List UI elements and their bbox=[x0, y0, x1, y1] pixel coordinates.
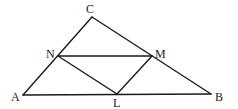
label-n: N bbox=[46, 47, 55, 61]
segment-ml bbox=[117, 56, 152, 94]
label-c: C bbox=[86, 2, 94, 16]
segment-ln bbox=[58, 56, 117, 94]
label-b: B bbox=[215, 90, 223, 104]
label-m: M bbox=[155, 47, 166, 61]
label-a: A bbox=[11, 90, 20, 104]
label-l: L bbox=[113, 96, 120, 109]
triangle-diagram: C N M A L B bbox=[0, 0, 238, 109]
